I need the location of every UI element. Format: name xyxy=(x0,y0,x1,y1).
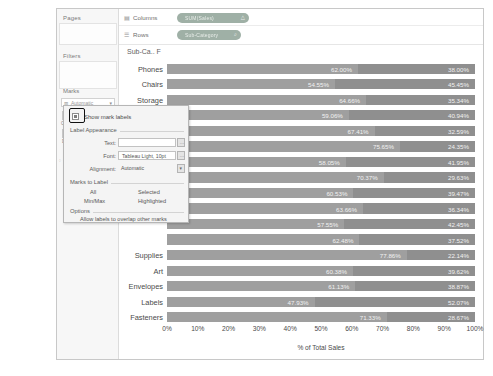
stacked-bar[interactable]: 60.53%39.47% xyxy=(167,188,475,198)
bar-segment[interactable]: 77.86% xyxy=(167,250,407,260)
bar-segment[interactable]: 63.66% xyxy=(167,203,363,213)
bar-segment[interactable]: 59.06% xyxy=(167,110,349,120)
show-mark-labels-row[interactable]: Show mark labels xyxy=(72,112,182,123)
bar-segment[interactable]: 39.47% xyxy=(353,188,475,198)
bar-segment[interactable]: 37.52% xyxy=(359,234,475,244)
bar-segment[interactable]: 42.45% xyxy=(344,219,475,229)
marks-to-label-minmax[interactable]: Min/Max xyxy=(84,198,105,204)
checkbox-highlight-box xyxy=(69,108,85,123)
stacked-bar[interactable]: 58.05%41.95% xyxy=(167,157,475,167)
bar-segment[interactable]: 24.35% xyxy=(400,141,475,151)
bar-segment[interactable]: 36.34% xyxy=(363,203,475,213)
bar-segment[interactable]: 47.93% xyxy=(167,297,315,307)
alignment-dropdown-button[interactable]: ▾ xyxy=(177,164,185,173)
stacked-bar[interactable]: 77.86%22.14% xyxy=(167,250,475,260)
row-label: Envelopes xyxy=(128,282,163,291)
bar-segment[interactable]: 52.07% xyxy=(315,297,475,307)
bar-segment[interactable]: 32.59% xyxy=(375,126,475,136)
bar-segment[interactable]: 35.34% xyxy=(366,95,475,105)
chart-row: Storage64.66%35.34% xyxy=(167,95,475,105)
font-field-input[interactable]: Tableau Light, 10pt xyxy=(118,151,176,160)
font-field-label: Font: xyxy=(103,153,116,159)
columns-shelf[interactable]: ▤ Columns SUM(Sales) △ xyxy=(119,9,483,26)
bar-value-label: 37.52% xyxy=(448,236,469,243)
bar-segment[interactable]: 28.67% xyxy=(387,312,475,322)
chart-row: 70.37%29.63% xyxy=(167,172,475,182)
text-field-ellipsis-button[interactable]: … xyxy=(177,138,185,147)
marks-to-label-highlighted[interactable]: Highlighted xyxy=(138,198,166,204)
marks-to-label-all[interactable]: All xyxy=(90,189,96,195)
bar-segment[interactable]: 58.05% xyxy=(167,157,346,167)
stacked-bar[interactable]: 60.38%39.62% xyxy=(167,266,475,276)
bar-value-label: 39.62% xyxy=(448,267,469,274)
bar-segment[interactable]: 41.95% xyxy=(346,157,475,167)
columns-icon: ▤ xyxy=(124,14,130,21)
bar-segment[interactable]: 75.65% xyxy=(167,141,400,151)
row-header-title: Sub-Ca.. F xyxy=(127,48,161,55)
bar-value-label: 52.07% xyxy=(448,298,469,305)
stacked-bar[interactable]: 75.65%24.35% xyxy=(167,141,475,151)
bar-segment[interactable]: 38.87% xyxy=(355,281,475,291)
stacked-bar[interactable]: 67.41%32.59% xyxy=(167,126,475,136)
options-title: Options xyxy=(70,208,93,214)
alignment-field-row[interactable]: Alignment: Automatic ▾ xyxy=(70,164,184,175)
chart-row: Labels47.93%52.07% xyxy=(167,297,475,307)
filters-shelf-dropzone[interactable] xyxy=(59,61,117,89)
bar-value-label: 62.48% xyxy=(332,236,353,243)
bar-segment[interactable]: 60.53% xyxy=(167,188,353,198)
bar-segment[interactable]: 22.14% xyxy=(407,250,475,260)
stacked-bar[interactable]: 61.13%38.87% xyxy=(167,281,475,291)
delta-icon: △ xyxy=(241,14,245,20)
chart-row: 57.55%42.45% xyxy=(167,219,475,229)
stacked-bar[interactable]: 59.06%40.94% xyxy=(167,110,475,120)
stacked-bar[interactable]: 71.33%28.67% xyxy=(167,312,475,322)
stacked-bar[interactable]: 47.93%52.07% xyxy=(167,297,475,307)
bar-segment[interactable]: 71.33% xyxy=(167,312,387,322)
marks-card-label: Marks xyxy=(63,88,79,94)
bar-segment[interactable]: 64.66% xyxy=(167,95,366,105)
bar-segment[interactable]: 38.00% xyxy=(358,64,475,74)
stacked-bar[interactable]: 64.66%35.34% xyxy=(167,95,475,105)
bar-segment[interactable]: 60.38% xyxy=(167,266,353,276)
stacked-bar[interactable]: 57.55%42.45% xyxy=(167,219,475,229)
font-field-ellipsis-button[interactable]: … xyxy=(177,151,185,160)
marks-to-label-selected[interactable]: Selected xyxy=(138,189,160,195)
text-field-input[interactable] xyxy=(118,138,176,147)
bar-segment[interactable]: 62.00% xyxy=(167,64,358,74)
bar-segment[interactable]: 45.45% xyxy=(335,79,475,89)
stacked-bar[interactable]: 54.55%45.45% xyxy=(167,79,475,89)
bar-segment[interactable]: 57.55% xyxy=(167,219,344,229)
stacked-bar[interactable]: 63.66%36.34% xyxy=(167,203,475,213)
x-axis-tick: 90% xyxy=(438,325,451,332)
bar-segment[interactable]: 70.37% xyxy=(167,172,384,182)
chart-row: Envelopes61.13%38.87% xyxy=(167,281,475,291)
x-axis-tick: 80% xyxy=(407,325,420,332)
pages-shelf-dropzone[interactable] xyxy=(59,23,117,45)
pill-sum-sales-label: SUM(Sales) xyxy=(185,15,214,21)
bar-value-label: 70.37% xyxy=(357,174,378,181)
stacked-bar[interactable]: 62.00%38.00% xyxy=(167,64,475,74)
overlap-option-label[interactable]: Allow labels to overlap other marks xyxy=(80,216,167,222)
alignment-field-input[interactable]: Automatic xyxy=(118,164,176,173)
text-field-row[interactable]: Text: … xyxy=(70,138,184,149)
bar-segment[interactable]: 61.13% xyxy=(167,281,355,291)
pill-sub-category[interactable]: Sub-Category ⌕ xyxy=(177,30,241,40)
font-field-row[interactable]: Font: Tableau Light, 10pt … xyxy=(70,151,184,162)
bar-segment[interactable]: 29.63% xyxy=(384,172,475,182)
chart-row: 60.53%39.47% xyxy=(167,188,475,198)
bar-segment[interactable]: 67.41% xyxy=(167,126,375,136)
stacked-bar[interactable]: 62.48%37.52% xyxy=(167,234,475,244)
alignment-field-label: Alignment: xyxy=(90,166,116,172)
bar-segment[interactable]: 54.55% xyxy=(167,79,335,89)
detail-small-icon: ⁘ xyxy=(58,158,62,163)
label-settings-dialog: Show mark labels Label Appearance Text: … xyxy=(63,105,189,223)
chart-row: 75.65%24.35% xyxy=(167,141,475,151)
bar-segment[interactable]: 39.62% xyxy=(353,266,475,276)
bar-segment[interactable]: 40.94% xyxy=(349,110,475,120)
x-axis-tick: 40% xyxy=(284,325,297,332)
rows-shelf[interactable]: ☰ Rows Sub-Category ⌕ xyxy=(119,26,483,43)
bar-segment[interactable]: 62.48% xyxy=(167,234,359,244)
stacked-bar[interactable]: 70.37%29.63% xyxy=(167,172,475,182)
rows-shelf-label: Rows xyxy=(133,31,148,38)
pill-sum-sales[interactable]: SUM(Sales) △ xyxy=(177,13,249,23)
